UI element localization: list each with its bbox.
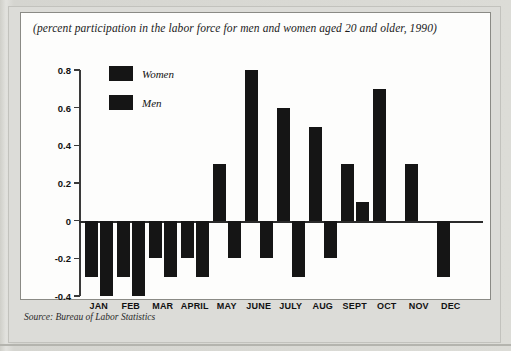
bar-june-men [260, 221, 273, 259]
x-tick-label-may: MAY [217, 301, 237, 311]
bar-april-men [196, 221, 209, 278]
plot-area: 0.80.60.40.20-0.2-0.4 JANFEBMARAPRILMAYJ… [79, 58, 487, 298]
bar-oct-women [373, 89, 386, 221]
bar-april-women [181, 221, 194, 259]
x-tick-label-oct: OCT [377, 301, 397, 311]
y-tick-label: -0.4 [55, 291, 71, 302]
bar-aug-men [324, 221, 337, 259]
y-tick-label: 0 [66, 215, 71, 226]
bar-aug-women [309, 127, 322, 221]
y-tick-mark [74, 220, 80, 222]
legend-item-women: Women [109, 66, 174, 81]
y-tick-label: 0.2 [58, 178, 71, 189]
chart-subtitle: (percent participation in the labor forc… [33, 22, 437, 34]
bar-may-women [213, 164, 226, 221]
x-tick-label-jan: JAN [89, 301, 108, 311]
x-tick-label-nov: NOV [409, 301, 429, 311]
x-tick-label-sept: SEPT [343, 301, 367, 311]
legend-label-men: Men [142, 97, 162, 109]
x-tick-label-dec: DEC [441, 301, 461, 311]
y-tick-mark [74, 182, 80, 184]
x-tick-label-feb: FEB [121, 301, 140, 311]
x-tick-label-june: JUNE [246, 301, 271, 311]
y-tick-label: 0.4 [58, 140, 71, 151]
bar-sept-women [341, 164, 354, 221]
x-tick-label-july: JULY [279, 301, 302, 311]
y-tick-label: 0.6 [58, 102, 71, 113]
bar-feb-women [117, 221, 130, 278]
y-tick-label: 0.8 [58, 65, 71, 76]
bar-mar-men [164, 221, 177, 278]
legend-swatch-men-icon [109, 95, 133, 110]
source-note: Source: Bureau of Labor Statistics [24, 312, 155, 322]
legend-swatch-women-icon [109, 66, 133, 81]
y-tick-mark [74, 295, 80, 297]
bar-sept-men [356, 202, 369, 221]
x-tick-label-april: APRIL [181, 301, 209, 311]
bar-mar-women [149, 221, 162, 259]
bar-nov-women [405, 164, 418, 221]
bar-feb-men [132, 221, 145, 296]
x-tick-label-mar: MAR [152, 301, 173, 311]
chart-panel: (percent participation in the labor forc… [20, 12, 491, 300]
legend-item-men: Men [109, 95, 174, 110]
figure-page: (percent participation in the labor forc… [0, 0, 511, 351]
y-tick-mark [74, 69, 80, 71]
bar-july-men [292, 221, 305, 278]
page-bottom-rule [0, 344, 511, 346]
bar-june-women [245, 70, 258, 221]
bar-jan-women [85, 221, 98, 278]
chart-legend: Women Men [109, 66, 174, 124]
y-tick-mark [74, 145, 80, 147]
bar-jan-men [100, 221, 113, 296]
bar-dec-women [437, 221, 450, 278]
y-tick-mark [74, 107, 80, 109]
y-tick-mark [74, 258, 80, 260]
y-tick-label: -0.2 [55, 253, 71, 264]
bar-may-men [228, 221, 241, 259]
x-tick-label-aug: AUG [312, 301, 333, 311]
legend-label-women: Women [142, 68, 174, 80]
bar-july-women [277, 108, 290, 221]
